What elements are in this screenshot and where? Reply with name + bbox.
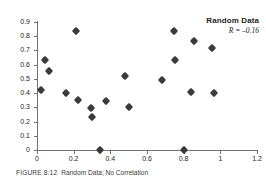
x-tick-mark: [257, 151, 258, 154]
figure-container: 00.10.20.30.40.50.60.70.80.9 00.20.40.60…: [0, 0, 266, 182]
data-point: [169, 27, 177, 35]
y-tick-label: 0.1: [8, 132, 30, 140]
y-tick-label: 0.3: [8, 103, 30, 111]
y-tick-label: 0: [8, 146, 30, 154]
x-tick-label: 0.2: [62, 155, 86, 163]
data-point: [72, 27, 80, 35]
data-point: [88, 112, 96, 120]
data-point: [121, 72, 129, 80]
y-tick-label: 0.8: [8, 32, 30, 40]
x-tick-label: 1.2: [245, 155, 266, 163]
x-tick-label: 0: [25, 155, 49, 163]
x-tick-mark: [74, 151, 75, 154]
chart-title: Random Data: [206, 16, 259, 26]
data-point: [208, 44, 216, 52]
figure-caption-label: FIGURE 8.12: [16, 169, 57, 176]
data-point: [190, 37, 198, 45]
x-tick-mark: [110, 151, 111, 154]
data-point: [102, 97, 110, 105]
data-point: [36, 85, 44, 93]
data-point: [124, 102, 132, 110]
scatter-plot-area: [37, 22, 257, 150]
correlation-value: R = –0.16: [206, 26, 259, 36]
data-point: [210, 89, 218, 97]
data-point: [87, 104, 95, 112]
chart-annotation: Random Data R = –0.16: [206, 16, 259, 36]
x-tick-label: 0.6: [135, 155, 159, 163]
x-tick-mark: [37, 151, 38, 154]
x-tick-label: 0.8: [172, 155, 196, 163]
data-point: [74, 95, 82, 103]
data-point: [96, 146, 104, 154]
y-tick-label: 0.7: [8, 46, 30, 54]
data-point: [157, 76, 165, 84]
y-tick-label: 0.5: [8, 75, 30, 83]
data-point: [45, 67, 53, 75]
y-tick-label: 0.2: [8, 118, 30, 126]
data-point: [179, 146, 187, 154]
data-point: [41, 55, 49, 63]
data-point: [171, 56, 179, 64]
x-tick-mark: [147, 151, 148, 154]
figure-caption: FIGURE 8.12Random Data; No Correlation: [16, 168, 148, 177]
figure-caption-text: Random Data; No Correlation: [61, 169, 148, 176]
x-tick-label: 1: [208, 155, 232, 163]
y-tick-label: 0.6: [8, 61, 30, 69]
data-point: [187, 87, 195, 95]
x-tick-label: 0.4: [98, 155, 122, 163]
x-tick-mark: [220, 151, 221, 154]
y-tick-label: 0.4: [8, 89, 30, 97]
data-point: [62, 89, 70, 97]
y-tick-label: 0.9: [8, 18, 30, 26]
